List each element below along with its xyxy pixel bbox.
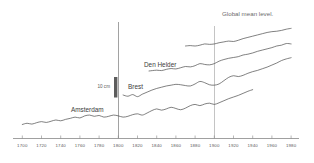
x-axis [13,136,299,139]
x-tick-labels: 1700 1720 1740 1760 1780 1800 1820 1840 … [17,143,297,148]
x-tick-label: 1980 [286,143,297,148]
x-tick-label: 1760 [75,143,86,148]
x-tick-label: 1960 [267,143,278,148]
scale-bar-group: 10 cm [97,77,117,98]
x-tick-label: 1800 [113,143,124,148]
series-label-brest: Brest [128,83,143,90]
x-tick-label: 1860 [171,143,182,148]
series-label-amsterdam: Amsterdam [71,106,104,113]
series-label-den-helder: Den Helder [144,61,177,68]
scale-bar [114,77,117,98]
series-label-global-mean: Global mean level. [222,10,274,17]
series-line-amsterdam [22,90,252,125]
x-tick-label: 1940 [248,143,259,148]
x-tick-label: 1820 [132,143,143,148]
series-line-global-mean [186,28,292,46]
x-tick-label: 1720 [36,143,47,148]
gridlines [119,22,215,138]
data-curves [22,28,291,124]
x-tick-label: 1840 [152,143,163,148]
chart-svg: 1700 1720 1740 1760 1780 1800 1820 1840 … [0,0,314,163]
x-tick-label: 1900 [209,143,220,148]
x-tick-label: 1880 [190,143,201,148]
x-tick-label: 1780 [94,143,105,148]
sea-level-chart: 1700 1720 1740 1760 1780 1800 1820 1840 … [0,0,314,163]
scale-bar-label: 10 cm [97,84,110,89]
series-labels: Amsterdam Brest Den Helder Global mean l… [71,10,274,113]
x-tick-label: 1700 [17,143,28,148]
x-tick-label: 1920 [228,143,239,148]
x-tick-label: 1740 [56,143,67,148]
